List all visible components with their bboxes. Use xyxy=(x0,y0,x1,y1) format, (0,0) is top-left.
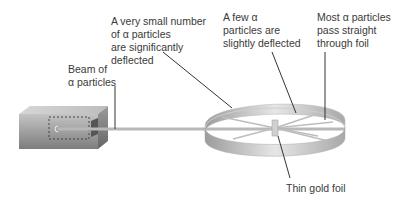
label-slight-deflection: A few α particles are slightly deflected xyxy=(223,11,301,50)
gold-foil xyxy=(272,120,278,136)
label-pass-through: Most α particles pass straight through f… xyxy=(317,11,391,50)
label-alpha-beam: Beam of α particles xyxy=(68,63,116,89)
diagram-canvas: A very small number of α particles are s… xyxy=(0,0,418,203)
label-significant-deflection: A very small number of α particles are s… xyxy=(111,15,206,67)
label-gold-foil: Thin gold foil xyxy=(286,182,346,195)
